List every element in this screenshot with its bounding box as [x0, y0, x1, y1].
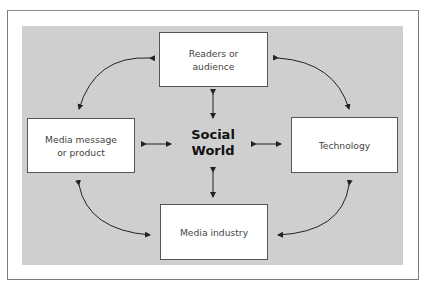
center-label-line: World — [178, 143, 248, 159]
curved-arrow-top-right — [278, 58, 349, 109]
node-readers-audience: Readers or audience — [159, 32, 268, 87]
node-media-industry: Media industry — [160, 204, 268, 260]
curved-arrow-bottom-left — [79, 185, 150, 235]
node-media-message: Media message or product — [27, 118, 135, 173]
center-label-social-world: Social World — [178, 127, 248, 159]
node-label: Readers or — [189, 47, 239, 60]
curved-arrow-top-left — [79, 58, 150, 109]
node-label: Media industry — [180, 226, 248, 239]
curved-arrow-bottom-right — [278, 185, 349, 235]
node-label: Technology — [319, 139, 370, 152]
center-label-line: Social — [178, 127, 248, 143]
node-technology: Technology — [291, 117, 398, 173]
node-label: or product — [45, 146, 117, 159]
node-label: Media message — [45, 133, 117, 146]
node-label: audience — [189, 60, 239, 73]
